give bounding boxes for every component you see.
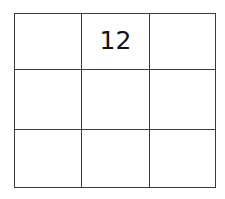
three-by-three-grid: 12 [14, 13, 216, 188]
grid-row [15, 130, 216, 188]
grid-cell-r1c1[interactable] [82, 70, 150, 130]
grid-cell-r0c1[interactable]: 12 [82, 14, 150, 70]
grid-cell-r2c1[interactable] [82, 130, 150, 188]
grid-cell-r2c2[interactable] [150, 130, 216, 188]
grid-row: 12 [15, 14, 216, 70]
grid-cell-r2c0[interactable] [15, 130, 82, 188]
grid-row [15, 70, 216, 130]
grid-cell-value: 12 [100, 28, 132, 53]
grid-cell-r0c0[interactable] [15, 14, 82, 70]
grid-container: 12 [14, 13, 212, 187]
grid-cell-r0c2[interactable] [150, 14, 216, 70]
grid-body: 12 [15, 14, 216, 188]
grid-cell-r1c0[interactable] [15, 70, 82, 130]
grid-cell-r1c2[interactable] [150, 70, 216, 130]
